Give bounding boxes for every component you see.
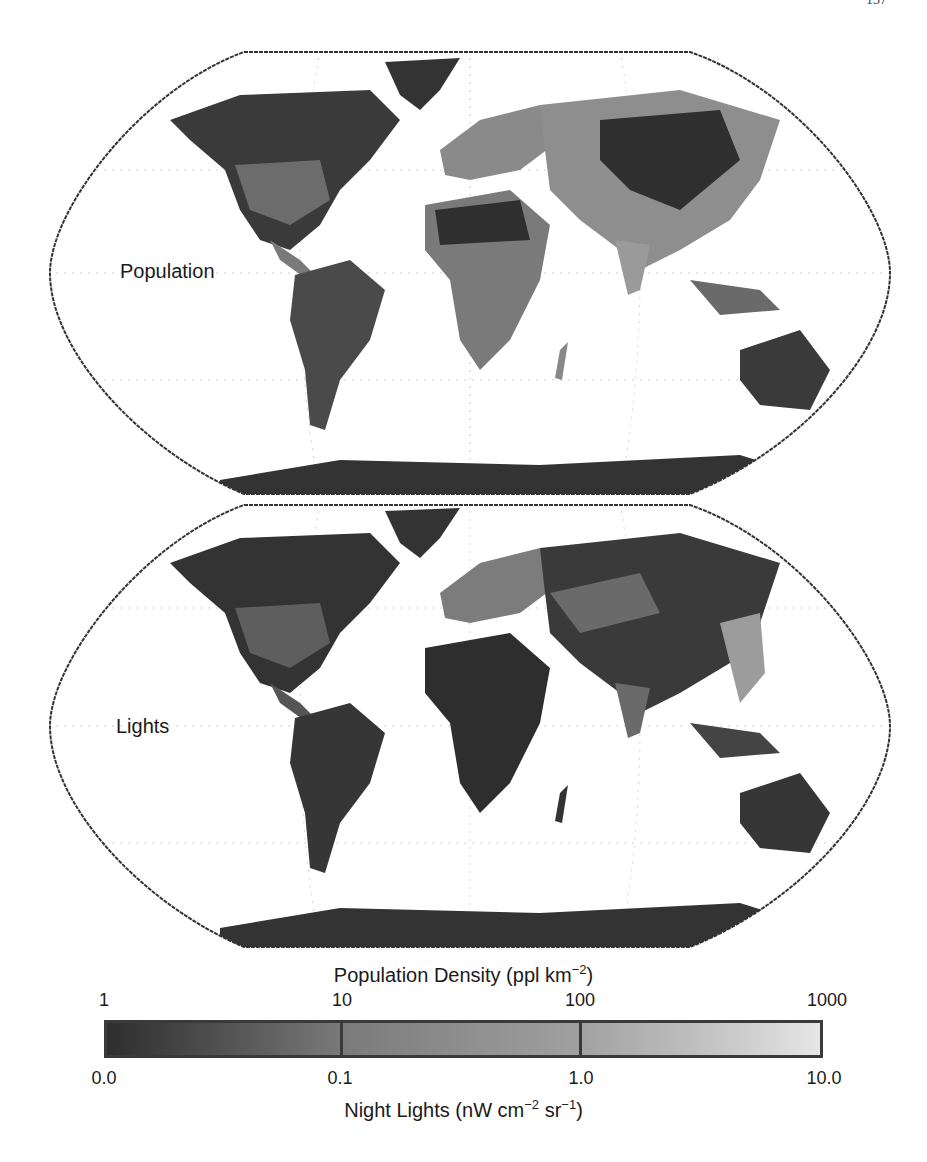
- colorbar-top-title: Population Density (ppl km−2): [0, 962, 927, 987]
- colorbar-divider: [579, 1023, 582, 1055]
- page-number: 137: [866, 0, 887, 8]
- colorbar-divider: [340, 1023, 343, 1055]
- colorbar-bottom-tick: 0.0: [91, 1068, 116, 1089]
- colorbar: [104, 1020, 823, 1058]
- colorbar-top-tick: 100: [565, 990, 595, 1011]
- colorbar-top-tick: 10: [332, 990, 352, 1011]
- colorbar-bottom-tick: 1.0: [568, 1068, 593, 1089]
- colorbar-bottom-tick: 10.0: [806, 1068, 841, 1089]
- colorbar-bottom-tick: 0.1: [327, 1068, 352, 1089]
- colorbar-top-tick: 1000: [807, 990, 847, 1011]
- lights-map-label: Lights: [116, 715, 169, 738]
- colorbar-top-tick: 1: [99, 990, 109, 1011]
- population-map: Population: [40, 50, 900, 496]
- lights-map: Lights: [40, 503, 900, 949]
- colorbar-bottom-title: Night Lights (nW cm−2 sr−1): [0, 1097, 927, 1122]
- population-map-label: Population: [120, 260, 215, 283]
